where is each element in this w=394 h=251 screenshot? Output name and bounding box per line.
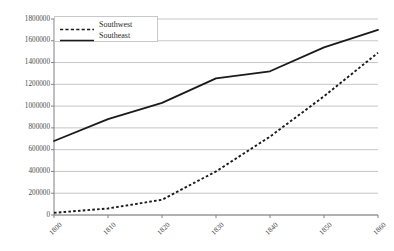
y-axis-tick-label: 1200000 [2,80,50,88]
y-axis-tick-label: 1000000 [2,102,50,110]
chart-legend: Southwest Southeast [54,16,158,42]
y-axis-tick-label: 600000 [2,145,50,153]
legend-swatch-solid [59,31,95,40]
legend-label-southeast: Southeast [99,31,130,40]
y-axis-tick-label: 200000 [2,189,50,197]
y-axis-tick-label: 1800000 [2,15,50,23]
series-lines [54,30,378,213]
legend-swatch-dashed [59,20,95,29]
legend-label-southwest: Southwest [99,20,132,29]
chart-container: 0200000400000600000800000100000012000001… [0,0,394,251]
y-axis-tick-label: 0 [2,211,50,219]
legend-item-southwest: Southwest [59,19,132,30]
y-axis-tick-label: 400000 [2,167,50,175]
gridlines [54,19,378,215]
legend-item-southeast: Southeast [59,30,130,41]
y-axis-tick-label: 800000 [2,123,50,131]
y-axis-tick-label: 1400000 [2,58,50,66]
y-axis-tick-label: 1600000 [2,36,50,44]
